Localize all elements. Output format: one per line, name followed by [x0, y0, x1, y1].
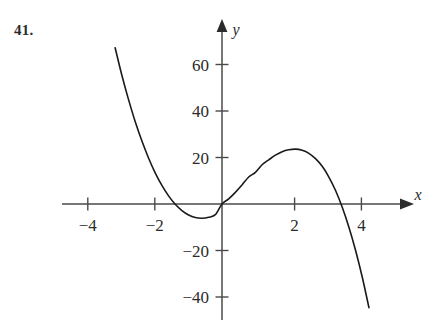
x-tick-label-4: 4	[357, 216, 366, 235]
y-tick-label-neg20: −20	[182, 242, 209, 261]
graph-canvas: −4 −2 2 4 60 40 20 −20 −40 x y	[0, 0, 446, 331]
y-axis-arrow-icon	[217, 19, 228, 32]
x-tick-label-2: 2	[290, 216, 299, 235]
y-axis-label: y	[230, 21, 240, 39]
y-tick-label-20: 20	[192, 149, 209, 168]
cubic-curve-path	[115, 48, 369, 308]
x-tick-label-neg2: −2	[146, 216, 164, 235]
x-axis-label: x	[413, 186, 421, 203]
y-tick-label-neg40: −40	[182, 288, 209, 307]
figure-container: 41. −4 −2 2 4 60 40 20 −20 −40 x y	[0, 0, 446, 331]
y-tick-label-40: 40	[192, 102, 209, 121]
problem-number: 41.	[14, 22, 33, 39]
y-tick-label-60: 60	[192, 56, 209, 75]
x-tick-label-neg4: −4	[79, 216, 98, 235]
x-axis-arrow-icon	[400, 199, 414, 210]
